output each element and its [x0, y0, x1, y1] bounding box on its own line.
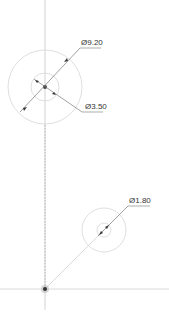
dim-label-inner[interactable]: Ø3.50 [85, 102, 107, 111]
dim-line-inner [34, 79, 82, 112]
sketch-canvas[interactable]: Ø9.20 Ø3.50 Ø1.80 [0, 0, 169, 327]
origin-point[interactable] [43, 287, 47, 291]
dim-label-outer[interactable]: Ø9.20 [81, 38, 103, 47]
arrow-icon [23, 107, 27, 111]
dim-line-outer [20, 48, 80, 112]
arrow-icon [35, 80, 39, 83]
dim-line-small [98, 206, 128, 236]
dim-label-small[interactable]: Ø1.80 [129, 196, 151, 205]
connector-line [45, 230, 104, 289]
